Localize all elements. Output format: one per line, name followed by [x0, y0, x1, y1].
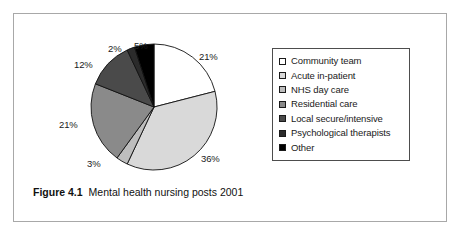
- legend-item: NHS day care: [279, 83, 402, 97]
- slice-label-acute-in-patient: 36%: [201, 153, 220, 164]
- slice-label-other: 5%: [134, 40, 148, 51]
- figure-caption-text: Mental health nursing posts 2001: [89, 186, 244, 198]
- legend-item-label: Acute in-patient: [291, 71, 355, 81]
- figure-caption-label: Figure 4.1: [33, 186, 83, 198]
- legend-item: Local secure/intensive: [279, 112, 402, 126]
- legend-swatch-icon: [279, 144, 286, 151]
- legend-item-label: Other: [291, 143, 314, 153]
- slice-label-nhs-day-care: 3%: [87, 158, 101, 169]
- legend-item-label: NHS day care: [291, 85, 349, 95]
- pie-slice-group: [91, 44, 217, 170]
- slice-label-local-secure-intensive: 12%: [74, 59, 93, 70]
- legend-swatch-icon: [279, 130, 286, 137]
- legend-item: Community team: [279, 54, 402, 68]
- figure-caption: Figure 4.1Mental health nursing posts 20…: [33, 186, 243, 198]
- legend-swatch-icon: [279, 115, 286, 122]
- slice-label-community-team: 21%: [199, 51, 218, 62]
- legend-item-label: Psychological therapists: [291, 128, 391, 138]
- legend-item-label: Local secure/intensive: [291, 114, 383, 124]
- legend-swatch-icon: [279, 86, 286, 93]
- legend-swatch-icon: [279, 72, 286, 79]
- legend: Community team Acute in-patient NHS day …: [272, 48, 410, 161]
- slice-label-psychological-therapists: 2%: [108, 43, 122, 54]
- slice-label-residential-care: 21%: [59, 119, 78, 130]
- legend-item: Residential care: [279, 97, 402, 111]
- legend-item-label: Community team: [291, 56, 361, 66]
- legend-item-label: Residential care: [291, 99, 358, 109]
- legend-item: Other: [279, 140, 402, 154]
- pie-chart: 21% 36% 3% 21% 12% 2% 5%: [66, 41, 246, 173]
- figure-frame: 21% 36% 3% 21% 12% 2% 5% Community team …: [13, 13, 447, 222]
- chart-area: 21% 36% 3% 21% 12% 2% 5% Community team …: [14, 14, 448, 179]
- legend-item: Psychological therapists: [279, 126, 402, 140]
- legend-swatch-icon: [279, 58, 286, 65]
- legend-swatch-icon: [279, 101, 286, 108]
- legend-item: Acute in-patient: [279, 68, 402, 82]
